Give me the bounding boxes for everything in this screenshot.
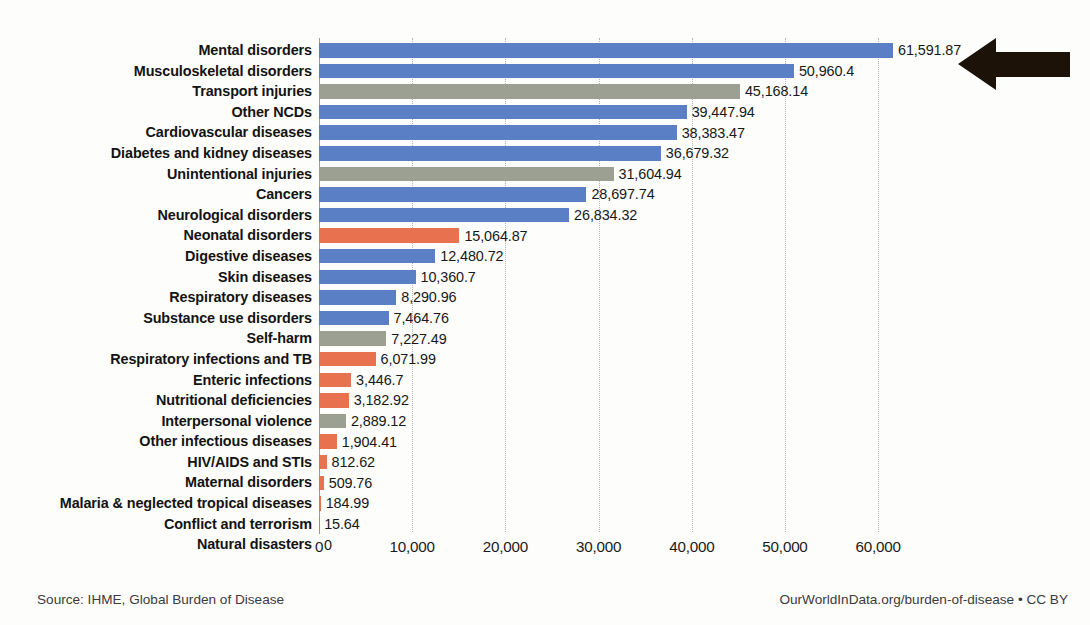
bar[interactable] [319,64,794,79]
value-label: 812.62 [327,455,375,469]
bar-row[interactable]: Other NCDs39,447.94 [0,102,1090,123]
x-tick-label: 10,000 [390,538,435,555]
bar[interactable] [319,414,346,429]
bar[interactable] [319,290,396,305]
category-label: Mental disorders [198,40,319,61]
bar[interactable] [319,270,416,285]
bar-row[interactable]: Unintentional injuries31,604.94 [0,164,1090,185]
bar[interactable] [319,105,687,120]
x-tick-label: 50,000 [762,538,807,555]
bar-row[interactable]: Skin diseases10,360.7 [0,267,1090,288]
bar[interactable] [319,84,740,99]
bar[interactable] [319,249,435,264]
bar-row[interactable]: Respiratory infections and TB6,071.99 [0,349,1090,370]
value-label: 26,834.32 [569,208,637,222]
bar[interactable] [319,455,327,470]
bar-chart-plot-area: Mental disorders61,591.87Musculoskeletal… [0,0,1090,560]
value-label: 38,383.47 [677,126,745,140]
category-label: Neurological disorders [157,205,319,226]
bar-row[interactable]: Substance use disorders7,464.76 [0,308,1090,329]
value-label: 61,591.87 [893,43,961,57]
category-label: Diabetes and kidney diseases [111,143,319,164]
value-label: 15,064.87 [459,229,527,243]
bar-and-value: 15,064.87 [319,225,528,246]
bar-and-value: 8,290.96 [319,287,456,308]
bar[interactable] [319,373,351,388]
bar-and-value: 10,360.7 [319,267,476,288]
bar-row[interactable]: HIV/AIDS and STIs812.62 [0,452,1090,473]
bar[interactable] [319,146,661,161]
chart-footer: Source: IHME, Global Burden of Disease O… [0,592,1090,625]
category-label: Substance use disorders [143,308,319,329]
bar[interactable] [319,352,376,367]
x-tick-label: 60,000 [856,538,901,555]
bar-and-value: 7,464.76 [319,308,449,329]
bar-row[interactable]: Mental disorders61,591.87 [0,40,1090,61]
credit-note: OurWorldInData.org/burden-of-disease • C… [779,592,1068,607]
value-label: 509.76 [324,476,372,490]
bar[interactable] [319,331,386,346]
category-label: Conflict and terrorism [164,514,319,535]
value-label: 36,679.32 [661,146,729,160]
value-label: 3,182.92 [349,393,409,407]
bar-row[interactable]: Nutritional deficiencies3,182.92 [0,390,1090,411]
value-label: 1,904.41 [337,435,397,449]
bar-and-value: 50,960.4 [319,61,854,82]
value-label: 6,071.99 [376,352,436,366]
bar-and-value: 45,168.14 [319,81,808,102]
bar-row[interactable]: Interpersonal violence2,889.12 [0,411,1090,432]
bar-row[interactable]: Maternal disorders509.76 [0,472,1090,493]
x-tick-label: 30,000 [576,538,621,555]
bar-row[interactable]: Enteric infections3,446.7 [0,370,1090,391]
bar-and-value: 3,182.92 [319,390,409,411]
category-label: Digestive diseases [185,246,319,267]
x-axis: 010,00020,00030,00040,00050,00060,000 [0,534,1090,564]
category-label: Maternal disorders [185,472,319,493]
category-label: Unintentional injuries [167,164,319,185]
bar-row[interactable]: Conflict and terrorism15.64 [0,514,1090,535]
bar[interactable] [319,167,614,182]
bar-and-value: 31,604.94 [319,164,682,185]
bar[interactable] [319,434,337,449]
source-note: Source: IHME, Global Burden of Disease [37,592,284,607]
category-label: Skin diseases [218,267,319,288]
bar[interactable] [319,311,389,326]
category-label: HIV/AIDS and STIs [187,452,319,473]
bar-and-value: 26,834.32 [319,205,637,226]
bar-row[interactable]: Malaria & neglected tropical diseases184… [0,493,1090,514]
bar-row[interactable]: Other infectious diseases1,904.41 [0,431,1090,452]
bar-row[interactable]: Diabetes and kidney diseases36,679.32 [0,143,1090,164]
bar[interactable] [319,43,893,58]
bar-row[interactable]: Cancers28,697.74 [0,184,1090,205]
bar[interactable] [319,208,569,223]
bar-row[interactable]: Musculoskeletal disorders50,960.4 [0,61,1090,82]
bar-and-value: 61,591.87 [319,40,961,61]
category-label: Interpersonal violence [161,411,319,432]
bar-row[interactable]: Cardiovascular diseases38,383.47 [0,122,1090,143]
bar-row[interactable]: Self-harm7,227.49 [0,328,1090,349]
category-label: Transport injuries [192,81,319,102]
bar-and-value: 38,383.47 [319,122,745,143]
bar-row[interactable]: Neonatal disorders15,064.87 [0,225,1090,246]
bar-row[interactable]: Neurological disorders26,834.32 [0,205,1090,226]
bar[interactable] [319,228,459,243]
category-label: Nutritional deficiencies [156,390,319,411]
category-label: Musculoskeletal disorders [134,61,319,82]
x-tick-label: 0 [315,538,323,555]
bar[interactable] [319,125,677,140]
bar-and-value: 3,446.7 [319,370,403,391]
bar-row[interactable]: Digestive diseases12,480.72 [0,246,1090,267]
bar-row[interactable]: Respiratory diseases8,290.96 [0,287,1090,308]
bar[interactable] [319,187,586,202]
category-label: Cardiovascular diseases [146,122,320,143]
bar-and-value: 812.62 [319,452,375,473]
value-label: 45,168.14 [740,84,808,98]
bar-rows: Mental disorders61,591.87Musculoskeletal… [0,40,1090,555]
category-label: Cancers [256,184,319,205]
bar-and-value: 509.76 [319,472,372,493]
bar[interactable] [319,393,349,408]
value-label: 12,480.72 [435,249,503,263]
category-label: Respiratory diseases [169,287,319,308]
bar-row[interactable]: Transport injuries45,168.14 [0,81,1090,102]
category-label: Respiratory infections and TB [110,349,319,370]
